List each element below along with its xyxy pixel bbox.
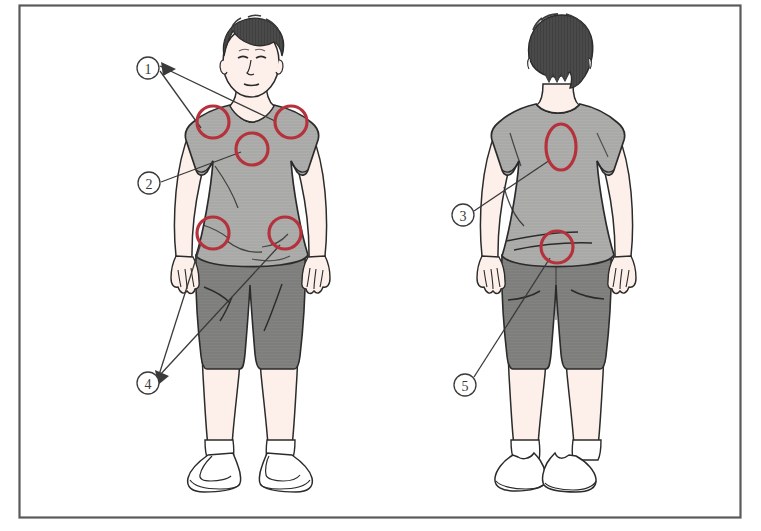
front-head <box>220 15 284 122</box>
marker-2-label: 2 <box>146 177 153 192</box>
marker-4-label: 4 <box>145 377 152 392</box>
body-diagram: 1 2 3 4 5 <box>0 0 761 531</box>
marker-2[interactable]: 2 <box>138 172 160 194</box>
marker-3-label: 3 <box>460 209 467 224</box>
illustration-container: 1 2 3 4 5 <box>0 0 761 531</box>
marker-1-label: 1 <box>145 62 152 77</box>
marker-5[interactable]: 5 <box>454 374 476 396</box>
marker-5-label: 5 <box>462 379 469 394</box>
marker-4[interactable]: 4 <box>137 372 159 394</box>
marker-3[interactable]: 3 <box>452 204 474 226</box>
marker-1[interactable]: 1 <box>137 57 159 79</box>
